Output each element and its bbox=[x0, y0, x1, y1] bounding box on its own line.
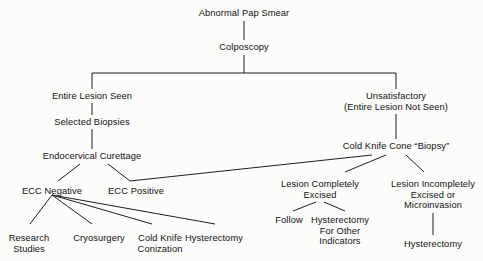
edge-lesion_completely_excised-to-hysterectomy_for_other_indicators bbox=[324, 202, 345, 211]
edge-ecc_negative-to-hysterectomy_ecc bbox=[52, 195, 215, 224]
edge-cold_knife_cone_biopsy-to-lesion_incompletely_excised bbox=[406, 155, 424, 172]
node-selected_biopsies: Selected Biopsies bbox=[54, 117, 129, 128]
node-ecc_negative: ECC Negative bbox=[22, 186, 82, 197]
node-hysterectomy_for_other_indicators: Hysterectomy For Other Indicators bbox=[311, 215, 369, 247]
connector-lines bbox=[0, 0, 483, 261]
node-cold_knife_conization: Cold Knife Conization bbox=[138, 233, 183, 254]
node-lesion_incompletely_excised: Lesion Incompletely Excised or Microinva… bbox=[391, 179, 475, 211]
node-unsatisfactory: Unsatisfactory (Entire Lesion Not Seen) bbox=[344, 91, 448, 112]
node-lesion_completely_excised: Lesion Completely Excised bbox=[281, 179, 359, 200]
edge-ecc_negative-to-research_studies bbox=[30, 195, 52, 224]
flowchart-canvas: Abnormal Pap SmearColposcopyEntire Lesio… bbox=[0, 0, 483, 261]
edge-ecc_negative-to-cryosurgery bbox=[52, 195, 92, 224]
node-entire_lesion_seen: Entire Lesion Seen bbox=[52, 91, 132, 102]
node-endocervical_curettage: Endocervical Curettage bbox=[43, 151, 142, 162]
node-follow: Follow bbox=[275, 215, 302, 226]
node-ecc_positive: ECC Positive bbox=[108, 186, 164, 197]
edge-lesion_completely_excised-to-follow bbox=[293, 202, 316, 211]
node-research_studies: Research Studies bbox=[9, 233, 50, 254]
node-cold_knife_cone_biopsy: Cold Knife Cone “Biopsy” bbox=[343, 141, 450, 152]
edge-ecc_positive-to-cold_knife_cone_biopsy bbox=[130, 155, 372, 181]
node-hysterectomy_ecc: Hysterectomy bbox=[185, 233, 243, 244]
node-hysterectomy_microinvasion: Hysterectomy bbox=[404, 239, 462, 250]
node-cryosurgery: Cryosurgery bbox=[73, 233, 125, 244]
edge-endocervical_curettage-to-ecc_positive bbox=[108, 164, 130, 181]
edge-ecc_negative-to-cold_knife_conization bbox=[52, 195, 152, 224]
edge-endocervical_curettage-to-ecc_negative bbox=[58, 164, 80, 181]
node-abnormal_pap_smear: Abnormal Pap Smear bbox=[199, 8, 290, 19]
node-colposcopy: Colposcopy bbox=[219, 42, 269, 53]
